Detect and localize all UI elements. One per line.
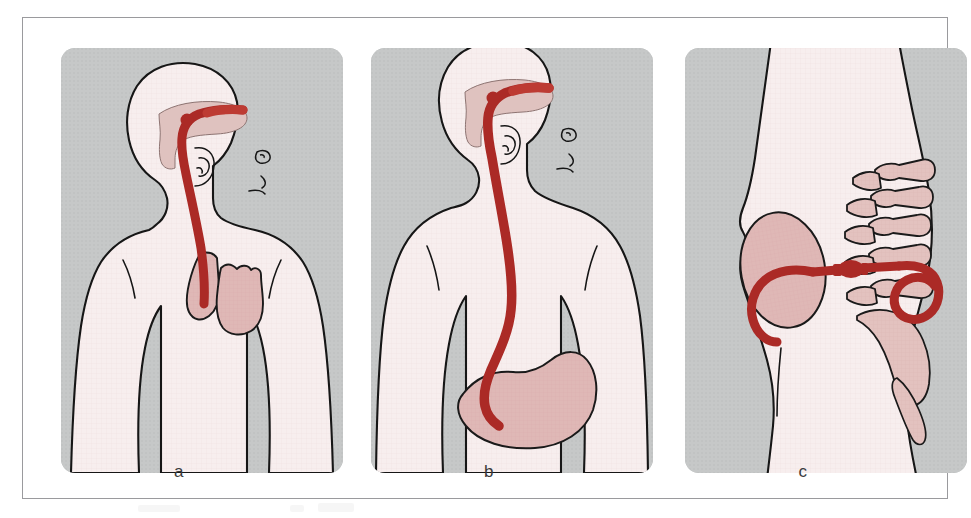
panel-b (371, 48, 653, 473)
panel-a (61, 48, 343, 473)
scan-artifact-1 (138, 505, 180, 512)
figure-frame (22, 17, 948, 499)
panel-label-a: a (38, 462, 320, 482)
figure-root: a b c (0, 0, 971, 518)
panel-label-c: c (662, 462, 944, 482)
panel-c-illustration (685, 48, 967, 473)
panel-a-illustration (61, 48, 343, 473)
heart-a (217, 265, 263, 335)
scan-artifact-2 (290, 505, 304, 512)
panel-label-b: b (348, 462, 630, 482)
panel-b-illustration (371, 48, 653, 473)
scan-artifact-3 (318, 503, 354, 512)
panel-c (685, 48, 967, 473)
